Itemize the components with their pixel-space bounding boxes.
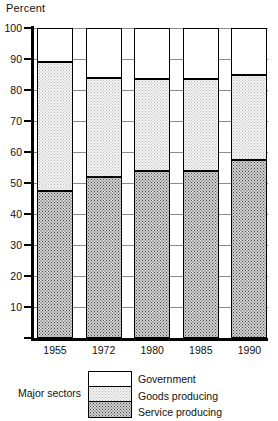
segment-service-producing-1980 [134,171,170,338]
y-tick-40 [24,213,34,215]
segment-goods-producing-1972 [86,78,122,177]
bar-1980 [134,28,170,338]
segment-service-producing-1990 [231,160,267,338]
y-tick-label-20: 20 [0,271,22,281]
y-tick-label-80: 80 [0,85,22,95]
y-tick-label-100: 100 [0,23,22,33]
legend-label-government: Government [138,371,222,388]
segment-government-1980 [134,28,170,79]
legend-swatch-goods-producing [89,387,131,402]
y-tick-30 [24,244,34,246]
legend-title: Major sectors [18,387,81,399]
y-tick-label-30: 30 [0,240,22,250]
y-tick-100 [24,27,34,29]
plot-area: 102030405060708090100 195519721980198519… [0,0,278,345]
segment-goods-producing-1955 [37,62,73,191]
segment-service-producing-1955 [37,191,73,338]
x-tick-label-1990: 1990 [227,344,271,356]
legend-swatches [88,371,132,418]
segment-goods-producing-1980 [134,79,170,170]
segment-government-1955 [37,28,73,62]
y-tick-20 [24,275,34,277]
y-tick-0 [24,337,34,339]
bar-1955 [37,28,73,338]
segment-government-1972 [86,28,122,78]
y-tick-60 [24,151,34,153]
y-tick-80 [24,89,34,91]
bar-1972 [86,28,122,338]
y-tick-label-90: 90 [0,54,22,64]
x-axis-line [31,338,268,341]
y-tick-label-40: 40 [0,209,22,219]
legend-label-goods-producing: Goods producing [138,388,222,405]
x-tick-label-1985: 1985 [179,344,223,356]
bar-1990 [231,28,267,338]
bar-1985 [183,28,219,338]
stacked-bar-chart: Percent 102030405060708090100 1955197219… [0,0,278,421]
y-tick-10 [24,306,34,308]
segment-government-1990 [231,28,267,75]
y-tick-label-50: 50 [0,178,22,188]
segment-service-producing-1972 [86,177,122,338]
y-tick-label-70: 70 [0,116,22,126]
x-tick-label-1980: 1980 [130,344,174,356]
segment-government-1985 [183,28,219,79]
x-tick-label-1972: 1972 [82,344,126,356]
legend-swatch-government [89,372,131,387]
legend-label-service-producing: Service producing [138,404,222,421]
y-tick-90 [24,58,34,60]
y-tick-50 [24,182,34,184]
segment-goods-producing-1990 [231,75,267,160]
y-tick-label-10: 10 [0,302,22,312]
y-tick-70 [24,120,34,122]
x-tick-label-1955: 1955 [33,344,77,356]
y-tick-label-60: 60 [0,147,22,157]
legend: Major sectors Government Goods producing… [0,367,278,421]
segment-goods-producing-1985 [183,79,219,170]
legend-swatch-service-producing [89,402,131,417]
segment-service-producing-1985 [183,171,219,338]
legend-labels: Government Goods producing Service produ… [138,371,222,421]
